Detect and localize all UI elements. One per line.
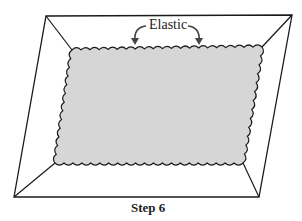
elastic-label: Elastic — [149, 17, 187, 33]
step-diagram — [0, 0, 302, 221]
fabric-panel — [53, 45, 263, 165]
step-caption: Step 6 — [131, 200, 165, 216]
